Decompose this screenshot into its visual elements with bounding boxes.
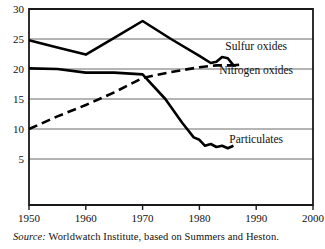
x-tick-label-2000: 2000 — [302, 212, 325, 224]
series-label-nitrogen-oxides: Nitrogen oxides — [219, 64, 293, 77]
x-tick-label-1950: 1950 — [18, 212, 41, 224]
y-tick-label-5: 5 — [19, 153, 25, 165]
series-line-particulates — [29, 68, 233, 148]
y-tick-label-20: 20 — [13, 63, 25, 75]
y-tick-label-10: 10 — [13, 123, 25, 135]
y-tick-label-30: 30 — [13, 3, 25, 15]
y-tick-label-15: 15 — [13, 93, 25, 105]
series-inline-labels: Sulfur oxidesNitrogen oxidesParticulates — [219, 40, 293, 146]
series-line-sulfur-oxides — [29, 21, 239, 65]
x-axis-tick-labels: 195019601970198019902000 — [18, 212, 325, 224]
source-prefix: Source: — [13, 231, 46, 242]
source-note: Source: Worldwatch Institute, based on S… — [13, 231, 279, 242]
chart-figure: 51015202530 195019601970198019902000 Sul… — [0, 0, 325, 249]
x-tick-label-1960: 1960 — [75, 212, 98, 224]
series-label-sulfur-oxides: Sulfur oxides — [225, 40, 287, 52]
y-tick-label-25: 25 — [13, 33, 25, 45]
emissions-line-chart: 51015202530 195019601970198019902000 Sul… — [0, 0, 325, 249]
series-label-particulates: Particulates — [229, 133, 283, 145]
x-tick-label-1970: 1970 — [132, 212, 155, 224]
y-axis-tick-labels: 51015202530 — [13, 3, 25, 165]
x-tick-label-1990: 1990 — [245, 212, 268, 224]
x-tick-label-1980: 1980 — [188, 212, 211, 224]
source-text: Worldwatch Institute, based on Summers a… — [46, 231, 279, 242]
